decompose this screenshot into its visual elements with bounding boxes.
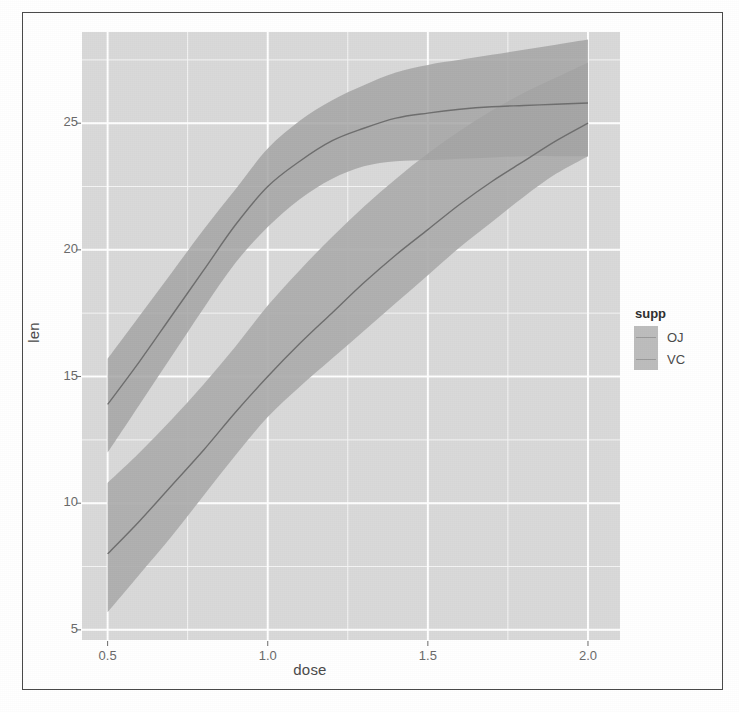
legend-key-vc	[634, 348, 658, 370]
y-tick-label: 10	[38, 494, 78, 509]
legend-key-oj	[634, 326, 658, 348]
y-tick-label: 25	[38, 114, 78, 129]
x-tick-label: 1.5	[404, 648, 452, 663]
legend-label-oj: OJ	[667, 330, 684, 345]
legend-key-line-oj	[636, 337, 656, 338]
y-tick-label: 15	[38, 368, 78, 383]
legend-title: supp	[635, 306, 730, 321]
y-tick-label: 5	[38, 621, 78, 636]
x-axis-title: dose	[0, 661, 620, 678]
y-tick-label: 20	[38, 241, 78, 256]
legend-item-vc[interactable]: VC	[634, 348, 730, 370]
legend: supp OJ VC	[634, 306, 730, 370]
chart-plot-area	[0, 0, 739, 712]
legend-label-vc: VC	[667, 352, 685, 367]
y-axis-title: len	[25, 293, 42, 373]
x-tick-label: 2.0	[564, 648, 612, 663]
x-tick-label: 1.0	[244, 648, 292, 663]
legend-key-line-vc	[636, 359, 656, 360]
x-tick-label: 0.5	[84, 648, 132, 663]
legend-item-oj[interactable]: OJ	[634, 326, 730, 348]
